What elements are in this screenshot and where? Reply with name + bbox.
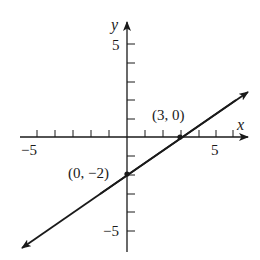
x-tick-label-5: 5 [211, 142, 219, 158]
x-axis-ticks [37, 130, 233, 137]
point-3-0 [177, 134, 182, 139]
point-0-neg2 [124, 171, 129, 176]
point-label-3-0: (3, 0) [152, 107, 185, 124]
point-label-0-neg2: (0, −2) [68, 165, 109, 182]
x-tick-label-neg5: −5 [21, 142, 37, 158]
x-axis-label: x [236, 116, 244, 133]
y-tick-label-neg5: −5 [103, 223, 119, 239]
y-tick-label-5: 5 [112, 37, 120, 53]
coordinate-plane: y x 5 −5 −5 5 (3, 0) (0, −2) [0, 0, 260, 260]
y-axis-label: y [109, 16, 119, 34]
plotted-line [22, 92, 248, 248]
x-axis [20, 130, 248, 137]
